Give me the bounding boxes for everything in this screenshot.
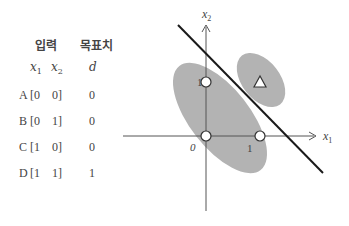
point-c-circle — [255, 131, 265, 141]
x1-axis-label: x1 — [322, 129, 332, 145]
x2-axis-label: x2 — [201, 7, 211, 23]
point-a-circle — [201, 131, 211, 141]
tick-y1: 1 — [197, 76, 203, 88]
point-b-circle — [201, 77, 211, 87]
and-gate-plot: 1 1 0 x1 x2 — [0, 0, 349, 226]
tick-x1: 1 — [247, 142, 253, 154]
origin-label: 0 — [190, 141, 196, 153]
